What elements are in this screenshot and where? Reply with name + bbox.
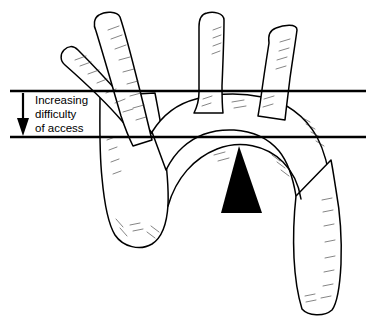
caption-line-1: Increasing xyxy=(35,94,88,106)
diagram-canvas: Increasing difficulty of access xyxy=(0,0,383,326)
caption-line-3: of access xyxy=(35,122,84,134)
difficulty-caption: Increasing difficulty of access xyxy=(35,94,88,134)
increasing-difficulty-arrow xyxy=(17,93,29,136)
arch-apex-pointer xyxy=(221,146,262,213)
aorta-group xyxy=(61,12,341,315)
caption-line-2: difficulty xyxy=(35,108,77,120)
aortic-arch-diagram: Increasing difficulty of access xyxy=(0,0,383,326)
branch-vessel-right xyxy=(258,25,297,120)
